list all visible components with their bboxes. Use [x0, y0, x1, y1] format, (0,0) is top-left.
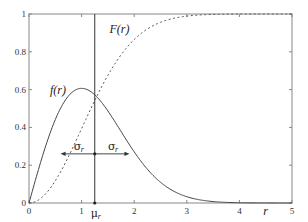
arrow-right-icon	[124, 152, 129, 156]
plot-curves	[29, 14, 292, 203]
y-tick-label: 0.4	[15, 122, 27, 132]
x-tick-label: 3	[185, 206, 190, 216]
sigma-left-label-subscript: r	[81, 145, 85, 154]
cdf-label: F(r)	[108, 22, 129, 36]
sigma-center-dot	[93, 152, 96, 155]
x-tick-label: 5	[290, 206, 295, 216]
plot-annotations: μrσrσrf(r)F(r)	[50, 14, 130, 221]
rayleigh-distribution-chart: 01234500.20.40.60.81r μrσrσrf(r)F(r)	[0, 0, 308, 222]
x-axis-label: r	[263, 204, 268, 218]
y-tick-label: 0.2	[15, 160, 26, 170]
x-tick-label: 4	[237, 206, 242, 216]
cdf-curve-F	[29, 14, 292, 203]
pdf-curve-f	[29, 88, 292, 203]
x-tick-label: 2	[132, 206, 137, 216]
plot-frame	[29, 14, 292, 203]
sigma-right-label-subscript: r	[115, 145, 119, 154]
y-tick-label: 0.6	[15, 85, 27, 95]
plot-axes: 01234500.20.40.60.81r	[15, 9, 295, 218]
x-tick-label: 1	[79, 206, 84, 216]
y-tick-label: 1	[22, 9, 27, 19]
arrow-left-icon	[61, 152, 66, 156]
mean-marker	[93, 201, 96, 204]
y-tick-label: 0.8	[15, 47, 27, 57]
y-tick-label: 0	[22, 198, 27, 208]
mean-label-subscript: r	[98, 212, 102, 221]
pdf-label: f(r)	[50, 83, 66, 97]
x-tick-label: 0	[27, 206, 32, 216]
